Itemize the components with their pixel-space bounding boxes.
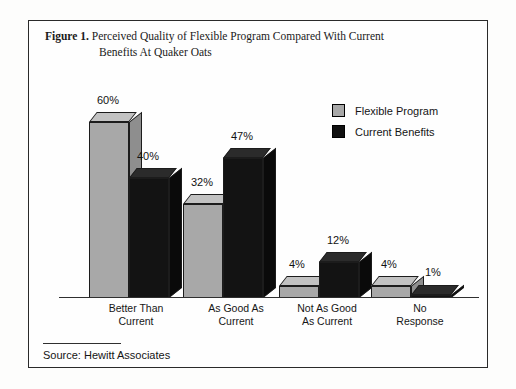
chart-baseline-axis — [59, 297, 479, 298]
source-note: Source: Hewitt Associates — [43, 349, 170, 361]
category-label-no-response: No Response — [365, 302, 475, 328]
bar-current-benefits-1 — [129, 178, 169, 298]
bar-value-label-4a: 4% — [289, 258, 305, 270]
category-line-2: Current — [81, 315, 191, 328]
bar-group-better-than-current: 60% 40% — [87, 76, 187, 298]
bar-current-benefits-2 — [223, 158, 263, 298]
bar-front-face — [129, 178, 169, 298]
bar-group-not-as-good-as-current: 4% 12% — [277, 76, 377, 298]
bar-side-face — [263, 148, 276, 298]
bar-group-no-response: 4% 1% — [369, 76, 469, 298]
bar-value-label-32: 32% — [191, 176, 213, 188]
category-label-better-than-current: Better Than Current — [81, 302, 191, 328]
bar-front-face — [183, 204, 223, 298]
category-line-1: No — [365, 302, 475, 315]
bar-front-face — [223, 158, 263, 298]
bar-flexible-program-2 — [183, 204, 223, 298]
bar-front-face — [89, 122, 129, 298]
figure-frame: Figure 1. Perceived Quality of Flexible … — [28, 20, 488, 368]
bar-value-label-40: 40% — [137, 150, 159, 162]
bar-front-face — [319, 262, 359, 298]
bar-value-label-60: 60% — [97, 94, 119, 106]
bar-current-benefits-3 — [319, 262, 359, 298]
category-line-1: Better Than — [81, 302, 191, 315]
chart-plot-area: 60% 40% 32% 47% — [59, 76, 474, 298]
figure-title-line-1: Perceived Quality of Flexible Program Co… — [92, 30, 384, 42]
bar-value-label-12: 12% — [327, 234, 349, 246]
bar-flexible-program-1 — [89, 122, 129, 298]
source-divider — [43, 343, 121, 344]
bar-value-label-47: 47% — [231, 130, 253, 142]
bar-group-as-good-as-current: 32% 47% — [181, 76, 281, 298]
category-line-2: Response — [365, 315, 475, 328]
figure-title-line-2: Benefits At Quaker Oats — [99, 44, 465, 60]
figure-label: Figure 1. — [45, 30, 89, 42]
figure-title: Figure 1. Perceived Quality of Flexible … — [45, 28, 465, 60]
bar-value-label-1: 1% — [425, 266, 441, 278]
chart-category-labels: Better Than Current As Good As Current N… — [59, 302, 479, 336]
bar-value-label-4b: 4% — [381, 258, 397, 270]
